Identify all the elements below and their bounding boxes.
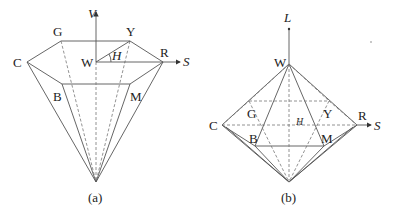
caption-b: (b) xyxy=(281,190,296,205)
figure-a-hexcone xyxy=(27,12,180,182)
color-space-diagrams: V S G Y C R W B M H (a) xyxy=(0,0,395,214)
s-axis-label-b: S xyxy=(374,118,381,133)
vertex-g-a: G xyxy=(53,24,62,39)
vertex-w-a: W xyxy=(81,55,94,70)
vertex-c-a: C xyxy=(13,55,22,70)
angle-label-a: H xyxy=(111,48,122,63)
vertex-y-b: Y xyxy=(323,106,333,121)
vertex-r-a: R xyxy=(160,45,169,60)
vertex-y-a: Y xyxy=(126,24,136,39)
vertex-m-a: M xyxy=(130,89,142,104)
v-axis-label: V xyxy=(88,6,98,21)
caption-a: (a) xyxy=(88,190,102,205)
angle-label-b: H xyxy=(295,116,304,127)
hexagon-a xyxy=(27,41,163,84)
s-axis-label-a: S xyxy=(183,54,190,69)
hue-angle-arc-a xyxy=(109,54,111,62)
vertex-c-b: C xyxy=(209,118,218,133)
vertex-g-b: G xyxy=(247,106,256,121)
vertex-w-b: W xyxy=(274,55,287,70)
stray-dot xyxy=(370,41,371,42)
vertex-r-b: R xyxy=(358,108,367,123)
figure-b-double-hexcone xyxy=(222,28,371,182)
l-axis-label: L xyxy=(283,10,291,25)
vertex-b-a: B xyxy=(53,89,62,104)
vertex-b-b: B xyxy=(249,131,258,146)
vertex-m-b: M xyxy=(321,131,333,146)
